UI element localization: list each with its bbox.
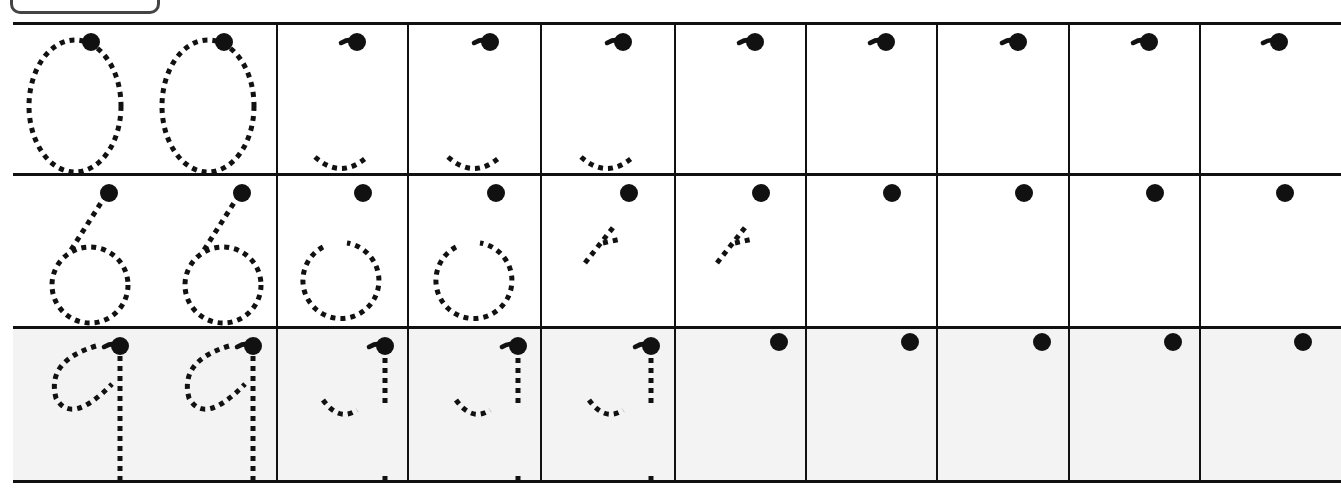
start-dot-icon: [614, 33, 632, 51]
start-dot-icon: [481, 33, 499, 51]
start-dot-icon: [111, 337, 129, 355]
start-dot-icon: [1009, 33, 1027, 51]
start-dot-icon: [1033, 333, 1051, 351]
start-dot-icon: [901, 333, 919, 351]
digit-0-model: [29, 40, 121, 172]
digit-9-partial-arc: [323, 400, 357, 414]
start-dot-icon: [244, 337, 262, 355]
digit-9-loop: [187, 346, 245, 409]
start-dot-icon: [82, 33, 100, 51]
start-dot-icon: [752, 184, 770, 202]
worksheet-title-box: [10, 0, 160, 14]
start-dot-icon: [877, 33, 895, 51]
start-dot-icon: [1140, 33, 1158, 51]
start-dot-icon: [487, 184, 505, 202]
start-dot-icon: [770, 333, 788, 351]
digit-6-stem: [71, 195, 106, 250]
tracing-strokes: [13, 22, 1341, 482]
digit-0-partial-guide: [315, 157, 367, 169]
tracing-grid: [13, 22, 1341, 482]
start-dot-icon: [1164, 333, 1182, 351]
digit-0-partial-guide: [581, 157, 633, 169]
digit-9-loop: [54, 346, 112, 409]
start-dot-icon: [354, 184, 372, 202]
start-dot-icon: [215, 33, 233, 51]
digit-6-model: [185, 247, 261, 323]
start-dot-icon: [746, 33, 764, 51]
start-dot-icon: [1015, 184, 1033, 202]
start-dot-icon: [348, 33, 366, 51]
start-dot-icon: [1270, 33, 1288, 51]
digit-6-partial-stroke: [717, 225, 747, 263]
digit-6-partial-loop: [303, 243, 379, 319]
start-dot-icon: [509, 337, 527, 355]
start-dot-icon: [620, 184, 638, 202]
start-dot-icon: [1146, 184, 1164, 202]
digit-6-model: [52, 247, 128, 323]
digit-0-model: [162, 40, 254, 172]
start-dot-icon: [1276, 184, 1294, 202]
start-dot-icon: [642, 337, 660, 355]
start-dot-icon: [883, 184, 901, 202]
start-dot-icon: [1294, 333, 1312, 351]
digit-9-partial-arc: [589, 400, 623, 414]
digit-9-partial-arc: [456, 400, 490, 414]
digit-6-partial-stroke: [585, 225, 615, 263]
digit-0-partial-guide: [448, 157, 500, 169]
start-dot-icon: [233, 184, 251, 202]
digit-6-stem: [204, 195, 239, 250]
start-dot-icon: [100, 184, 118, 202]
start-dot-icon: [376, 337, 394, 355]
digit-6-partial-loop: [436, 243, 512, 319]
